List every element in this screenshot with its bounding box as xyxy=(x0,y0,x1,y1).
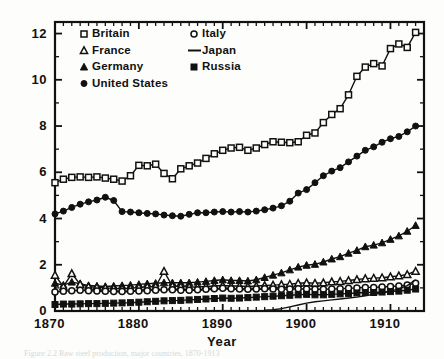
data-point xyxy=(144,288,150,294)
data-point xyxy=(295,190,301,196)
data-point xyxy=(86,301,92,307)
y-tick-label: 12 xyxy=(15,26,47,41)
data-point xyxy=(387,273,394,280)
data-point xyxy=(52,289,58,295)
data-point xyxy=(228,286,234,292)
data-point xyxy=(362,275,369,282)
data-point xyxy=(144,210,150,216)
data-point xyxy=(253,145,259,151)
data-point xyxy=(270,139,276,145)
data-point xyxy=(203,210,209,216)
data-point xyxy=(220,147,226,153)
legend-swatch xyxy=(191,64,197,70)
data-point xyxy=(186,297,192,303)
data-point xyxy=(69,174,75,180)
data-point xyxy=(111,300,117,306)
data-point xyxy=(354,153,360,159)
data-point xyxy=(320,292,326,298)
figure-caption: Figure 2.2 Raw steel production, major c… xyxy=(24,349,434,358)
data-point xyxy=(346,159,352,165)
data-point xyxy=(52,211,58,217)
data-point xyxy=(287,198,293,204)
legend-marker-france xyxy=(80,47,87,54)
data-point xyxy=(262,142,268,148)
data-point xyxy=(86,288,92,294)
data-point xyxy=(127,300,133,306)
data-point xyxy=(337,278,344,285)
data-point xyxy=(328,278,335,285)
data-point xyxy=(337,291,343,297)
data-point xyxy=(253,208,259,214)
x-axis-label: Year xyxy=(0,334,444,349)
series-united-states xyxy=(52,123,419,219)
data-point xyxy=(404,287,410,293)
data-point xyxy=(354,73,360,79)
data-point xyxy=(228,295,234,301)
data-point xyxy=(404,228,411,235)
data-point xyxy=(60,176,66,182)
data-point xyxy=(329,291,335,297)
data-point xyxy=(295,286,301,292)
data-point xyxy=(195,287,201,293)
data-point xyxy=(51,271,58,278)
data-point xyxy=(320,120,326,126)
data-point xyxy=(169,176,175,182)
data-point xyxy=(270,205,276,211)
data-point xyxy=(245,286,251,292)
legend-label-italy: Italy xyxy=(202,27,226,39)
data-point xyxy=(111,176,117,182)
legend-label-germany: Germany xyxy=(92,60,143,72)
data-point xyxy=(371,61,377,67)
data-point xyxy=(354,290,360,296)
data-point xyxy=(253,286,259,292)
data-point xyxy=(68,270,75,277)
data-point xyxy=(195,296,201,302)
data-point xyxy=(387,136,393,142)
legend-label-britain: Britain xyxy=(92,27,130,39)
data-point xyxy=(262,207,268,213)
data-point xyxy=(404,44,410,50)
legend-marker-germany xyxy=(80,63,87,70)
data-point xyxy=(169,298,175,304)
data-point xyxy=(211,286,217,292)
data-point xyxy=(220,209,226,215)
data-point xyxy=(237,286,243,292)
x-tick-label: 1890 xyxy=(202,316,233,331)
data-point xyxy=(52,302,58,308)
data-point xyxy=(102,175,108,181)
data-point xyxy=(94,197,100,203)
data-point xyxy=(127,288,133,294)
data-point xyxy=(161,287,167,293)
data-point xyxy=(262,286,268,292)
y-tick-label: 10 xyxy=(15,72,47,87)
data-point xyxy=(119,289,125,295)
legend-swatch xyxy=(81,31,87,37)
data-point xyxy=(387,46,393,52)
data-point xyxy=(77,287,83,293)
data-point xyxy=(186,287,192,293)
data-point xyxy=(161,170,167,176)
data-point xyxy=(144,163,150,169)
data-point xyxy=(211,151,217,157)
data-point xyxy=(270,293,276,299)
data-point xyxy=(136,210,142,216)
data-point xyxy=(186,211,192,217)
x-tick-label: 1910 xyxy=(369,316,400,331)
data-point xyxy=(304,291,310,297)
data-point xyxy=(329,168,335,174)
data-point xyxy=(153,161,159,167)
data-point xyxy=(278,293,284,299)
legend-label-russia: Russia xyxy=(202,60,241,72)
series-line xyxy=(55,126,416,216)
data-point xyxy=(353,276,360,283)
data-point xyxy=(346,290,352,296)
data-point xyxy=(111,197,117,203)
legend-marker-united-states xyxy=(81,81,87,87)
data-point xyxy=(237,295,243,301)
data-point xyxy=(102,288,108,294)
data-point xyxy=(220,295,226,301)
legend-swatch xyxy=(80,47,87,54)
data-point xyxy=(178,287,184,293)
data-point xyxy=(94,288,100,294)
data-point xyxy=(320,279,327,286)
